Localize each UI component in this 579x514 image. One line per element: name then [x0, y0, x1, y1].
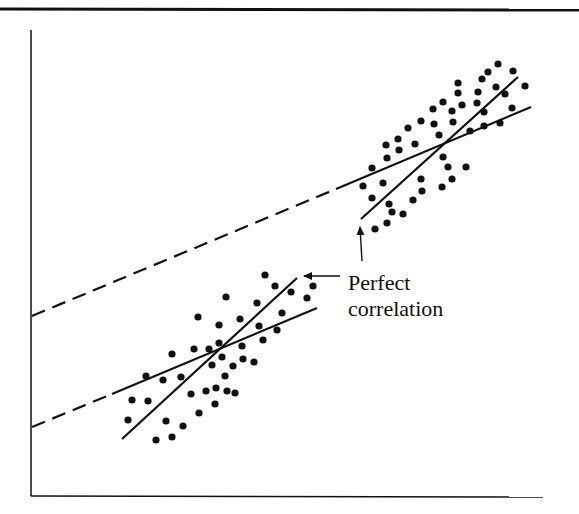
- data-point: [212, 384, 219, 391]
- data-point: [462, 163, 469, 170]
- data-point: [385, 200, 392, 207]
- data-point: [218, 353, 225, 360]
- data-point: [194, 313, 201, 320]
- data-point: [168, 350, 175, 357]
- data-point: [159, 376, 166, 383]
- data-point: [417, 175, 424, 182]
- data-point: [211, 400, 218, 407]
- data-point: [287, 288, 294, 295]
- data-point: [473, 99, 480, 106]
- data-point: [368, 164, 375, 171]
- data-point: [435, 131, 442, 138]
- top-border: [0, 9, 579, 10]
- data-point: [309, 282, 316, 289]
- data-point: [379, 179, 386, 186]
- data-point: [418, 187, 425, 194]
- dashed-line: [32, 394, 112, 427]
- data-point: [255, 322, 262, 329]
- data-point: [474, 88, 481, 95]
- data-point: [273, 326, 280, 333]
- data-point: [480, 108, 487, 115]
- data-point: [259, 336, 266, 343]
- annotation-label: Perfect correlation: [348, 270, 443, 322]
- correlation-diagram: [0, 0, 579, 514]
- data-point: [144, 397, 151, 404]
- data-point: [458, 101, 465, 108]
- data-point: [449, 118, 456, 125]
- data-point: [454, 79, 461, 86]
- data-point: [430, 120, 437, 127]
- data-point: [238, 342, 245, 349]
- data-point: [501, 90, 508, 97]
- data-point: [195, 409, 202, 416]
- data-point: [409, 196, 416, 203]
- regression-line-shallow: [112, 308, 317, 394]
- data-point: [368, 194, 375, 201]
- data-point: [382, 141, 389, 148]
- data-point: [496, 119, 503, 126]
- data-point: [480, 122, 487, 129]
- data-point: [388, 208, 395, 215]
- data-point: [494, 60, 501, 67]
- data-point: [221, 372, 228, 379]
- data-point: [253, 299, 260, 306]
- axes: [31, 30, 543, 497]
- data-point: [371, 225, 378, 232]
- data-point: [223, 387, 230, 394]
- data-point: [439, 153, 446, 160]
- data-point: [179, 422, 186, 429]
- dashed-extrapolation-lines: [32, 189, 336, 427]
- data-point: [448, 175, 455, 182]
- data-point: [448, 107, 455, 114]
- data-point: [187, 390, 194, 397]
- data-point: [444, 163, 451, 170]
- annotation-line-2: correlation: [348, 296, 443, 322]
- data-point: [250, 358, 257, 365]
- data-point: [509, 67, 516, 74]
- data-point: [236, 315, 243, 322]
- data-point: [417, 117, 424, 124]
- data-point: [215, 339, 222, 346]
- data-point: [177, 373, 184, 380]
- data-point: [454, 89, 461, 96]
- annotation-arrows: [304, 227, 362, 276]
- data-point: [359, 182, 366, 189]
- dashed-line: [32, 189, 336, 316]
- data-point: [383, 154, 390, 161]
- data-point: [394, 135, 401, 142]
- data-point: [215, 321, 222, 328]
- data-point: [429, 105, 436, 112]
- data-point: [142, 372, 149, 379]
- data-point: [466, 127, 473, 134]
- data-point: [278, 309, 285, 316]
- data-point: [399, 210, 406, 217]
- data-point: [395, 146, 402, 153]
- data-point: [492, 83, 499, 90]
- data-point: [404, 124, 411, 131]
- data-point: [190, 345, 197, 352]
- data-point: [303, 294, 310, 301]
- x-axis: [31, 496, 543, 497]
- data-point: [439, 98, 446, 105]
- data-point: [205, 345, 212, 352]
- data-point: [383, 219, 390, 226]
- data-point: [239, 355, 246, 362]
- data-point: [202, 387, 209, 394]
- data-point: [128, 396, 135, 403]
- data-point: [484, 68, 491, 75]
- data-point: [478, 75, 485, 82]
- data-point: [271, 282, 278, 289]
- data-point: [521, 82, 528, 89]
- data-point: [208, 361, 215, 368]
- data-point: [222, 293, 229, 300]
- data-point: [152, 436, 159, 443]
- data-point: [162, 417, 169, 424]
- annotation-line-1: Perfect: [348, 270, 443, 296]
- data-point: [231, 389, 238, 396]
- data-point: [229, 362, 236, 369]
- data-point: [124, 416, 131, 423]
- data-point: [438, 183, 445, 190]
- data-point: [411, 140, 418, 147]
- data-point: [508, 104, 515, 111]
- arrow-icon: [360, 227, 362, 261]
